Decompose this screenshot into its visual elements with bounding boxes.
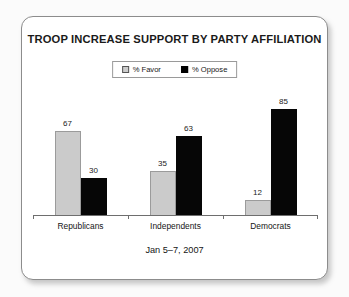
bar-value-independents-favor: 35 [158, 160, 167, 168]
bar-group-democrats: 12 85 [223, 95, 318, 215]
bar-value-democrats-oppose: 85 [279, 98, 288, 106]
bar-democrats-favor [245, 200, 271, 215]
bar-independents-favor [150, 171, 176, 215]
bar-democrats-oppose [271, 109, 297, 215]
legend-item-favor: % Favor [122, 65, 161, 74]
bar-wrap-republicans-favor: 67 [55, 95, 81, 215]
bar-independents-oppose [176, 136, 202, 215]
bar-wrap-independents-oppose: 63 [176, 95, 202, 215]
bar-pair: 35 63 [150, 95, 202, 215]
bar-republicans-oppose [81, 178, 107, 216]
bar-wrap-independents-favor: 35 [150, 95, 176, 215]
axis-tick-2 [223, 215, 224, 219]
x-label-democrats: Democrats [223, 221, 318, 231]
bar-wrap-democrats-oppose: 85 [271, 95, 297, 215]
chart-title: TROOP INCREASE SUPPORT BY PARTY AFFILIAT… [22, 33, 327, 45]
bar-wrap-democrats-favor: 12 [245, 95, 271, 215]
bar-value-republicans-favor: 67 [63, 120, 72, 128]
legend-label-favor: % Favor [133, 65, 161, 74]
bar-pair: 12 85 [245, 95, 297, 215]
axis-tick-1 [128, 215, 129, 219]
x-label-independents: Independents [128, 221, 223, 231]
page-background: TROOP INCREASE SUPPORT BY PARTY AFFILIAT… [0, 0, 349, 297]
plot-area: 67 30 35 [33, 95, 318, 215]
bar-group-republicans: 67 30 [33, 95, 128, 215]
x-axis-line [33, 215, 318, 216]
x-label-republicans: Republicans [33, 221, 128, 231]
bar-groups: 67 30 35 [33, 95, 318, 215]
legend-swatch-favor-icon [122, 66, 129, 73]
bar-value-independents-oppose: 63 [184, 125, 193, 133]
axis-tick-end [317, 215, 318, 219]
legend-label-oppose: % Oppose [192, 65, 227, 74]
bar-pair: 67 30 [55, 95, 107, 215]
legend-swatch-oppose-icon [181, 66, 188, 73]
chart-card: TROOP INCREASE SUPPORT BY PARTY AFFILIAT… [21, 16, 328, 280]
bar-value-democrats-favor: 12 [253, 189, 262, 197]
bar-value-republicans-oppose: 30 [89, 167, 98, 175]
axis-tick-start [33, 215, 34, 219]
chart-footnote: Jan 5–7, 2007 [22, 245, 327, 255]
legend-item-oppose: % Oppose [181, 65, 227, 74]
bar-wrap-republicans-oppose: 30 [81, 95, 107, 215]
bar-republicans-favor [55, 131, 81, 215]
chart-legend: % Favor % Oppose [112, 61, 238, 78]
bar-group-independents: 35 63 [128, 95, 223, 215]
x-axis-labels: Republicans Independents Democrats [33, 221, 318, 231]
